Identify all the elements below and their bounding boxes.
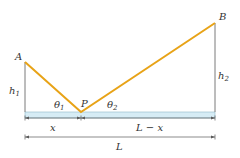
point-label-b: B (218, 11, 226, 22)
reflection-diagram: A B P h1 h2 θ1 θ2 x L − x L (0, 0, 240, 158)
dimension-label-x: x (50, 122, 56, 133)
point-label-p: P (80, 98, 88, 109)
height-label-h2: h2 (218, 70, 229, 83)
ground-strip (25, 112, 215, 118)
dimension-label-L: L (115, 141, 123, 152)
angle-label-theta2: θ2 (107, 99, 118, 112)
angle-label-theta1: θ1 (54, 99, 65, 112)
height-label-h1: h1 (9, 85, 20, 98)
point-label-a: A (14, 51, 22, 62)
dimension-label-l-minus-x: L − x (135, 122, 163, 133)
